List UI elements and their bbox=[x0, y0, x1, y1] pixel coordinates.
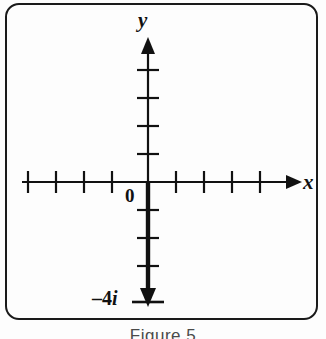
point-label-imaginary-unit: i bbox=[112, 287, 118, 309]
origin-label: 0 bbox=[125, 186, 135, 205]
figure-caption: Figure 5 bbox=[0, 326, 326, 339]
x-axis-label: x bbox=[303, 172, 314, 193]
coordinate-plane-svg bbox=[0, 0, 326, 339]
point-label-minus-4i: –4i bbox=[92, 288, 118, 308]
figure-container: y x 0 –4i Figure 5 bbox=[0, 0, 326, 339]
y-axis-arrowhead-up bbox=[141, 37, 155, 54]
y-axis-label: y bbox=[138, 10, 147, 31]
vector-minus-4i-arrowhead bbox=[140, 288, 156, 307]
point-label-number: –4 bbox=[92, 287, 112, 309]
x-axis-arrowhead bbox=[286, 175, 302, 189]
